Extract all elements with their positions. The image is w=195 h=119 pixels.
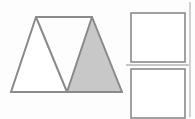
geometry-figure-canvas bbox=[0, 0, 195, 119]
bottom-square bbox=[131, 69, 185, 118]
geometry-figure-svg bbox=[0, 0, 195, 119]
top-square bbox=[131, 13, 185, 62]
